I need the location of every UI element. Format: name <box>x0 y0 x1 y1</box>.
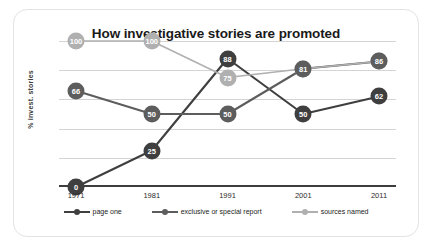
chart-legend: page oneexclusive or special reportsourc… <box>14 207 418 216</box>
data-point: 88 <box>219 50 236 67</box>
data-point: 86 <box>371 53 388 70</box>
legend-swatch-icon <box>64 207 90 216</box>
legend-swatch-icon <box>292 207 318 216</box>
data-point: 66 <box>68 82 85 99</box>
legend-label: sources named <box>321 208 369 215</box>
chart-card: How investigative stories are promoted %… <box>13 9 419 237</box>
data-point: 62 <box>371 88 388 105</box>
x-tick-label: 2011 <box>371 191 387 200</box>
x-tick-label: 1981 <box>143 191 160 200</box>
x-tick-label: 1991 <box>219 191 236 200</box>
legend-item[interactable]: page one <box>64 207 122 216</box>
data-point: 81 <box>295 60 312 77</box>
legend-item[interactable]: exclusive or special report <box>152 207 262 216</box>
y-axis-label: % invest. stories <box>27 50 34 150</box>
data-point: 50 <box>219 106 236 123</box>
legend-label: exclusive or special report <box>181 208 262 215</box>
x-tick-label: 2001 <box>295 191 312 200</box>
legend-swatch-icon <box>152 207 178 216</box>
data-point: 100 <box>143 33 160 50</box>
data-point: 25 <box>143 142 160 159</box>
legend-label: page one <box>93 208 122 215</box>
data-point: 100 <box>68 33 85 50</box>
data-point: 50 <box>143 106 160 123</box>
x-tick-label: 1971 <box>68 191 85 200</box>
legend-item[interactable]: sources named <box>292 207 369 216</box>
data-point: 75 <box>219 69 236 86</box>
plot-area: 1001007581866650508186025885062 19711981… <box>59 41 396 187</box>
data-point: 50 <box>295 106 312 123</box>
